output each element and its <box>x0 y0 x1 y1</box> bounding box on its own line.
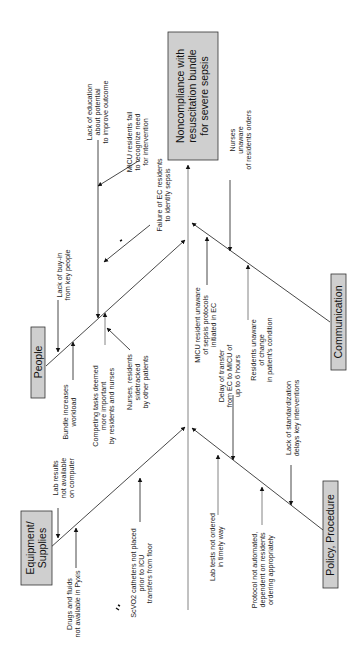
equipment-label-1: Equipment/ <box>24 521 36 574</box>
equipment-label-2: Supplies <box>36 528 48 568</box>
cause-label: by other patients <box>141 355 150 409</box>
policy-label: Policy, Procedure <box>324 494 336 576</box>
policy-category-box: Policy, Procedure <box>323 481 338 588</box>
cause-label: in patient's condition <box>265 318 274 383</box>
cause-label: in timely way <box>216 526 225 568</box>
cause-label: of residents orders <box>244 110 253 170</box>
fishbone-diagram: Noncompliance with resuscitation bundle … <box>0 0 356 671</box>
cause-label: for intervention <box>141 118 150 166</box>
cause-label: up to 6 hours <box>233 355 242 397</box>
stray-mark <box>120 240 122 241</box>
effect-line-1: Noncompliance with <box>174 49 186 143</box>
people-category-box: People <box>31 327 45 398</box>
communication-label: Communication <box>332 285 344 358</box>
stray-mark <box>116 605 120 610</box>
cause-label: to improve outcome <box>101 80 110 143</box>
cause-label: to identify sepsis <box>163 168 172 222</box>
cause-arrow <box>104 225 150 262</box>
cause-label: workload <box>69 398 78 428</box>
cause-label: ordering appropriately <box>266 535 275 605</box>
cause-label: from key people <box>63 249 72 300</box>
cause-label: transfers from floor <box>145 542 154 603</box>
cause-label: not available in Pyxis <box>73 570 82 638</box>
equipment-category-box: Equipment/ Supplies <box>21 511 52 585</box>
cause-label: on computer <box>67 457 76 498</box>
effect-box: Noncompliance with resuscitation bundle … <box>168 32 218 160</box>
effect-line-2: resuscitation bundle <box>186 49 198 143</box>
communication-category-box: Communication <box>331 274 346 370</box>
cause-arrow <box>107 328 130 350</box>
cause-label: delays key interventions <box>292 379 301 456</box>
cause-label: by residents and nurses <box>107 367 116 444</box>
effect-line-3: for severe sepsis <box>198 56 210 135</box>
cause-label: initiated in EC <box>209 303 218 347</box>
people-label: People <box>32 345 44 378</box>
